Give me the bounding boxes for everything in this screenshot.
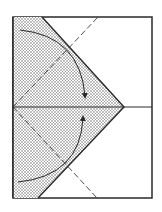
origami-diagram [0, 0, 162, 212]
